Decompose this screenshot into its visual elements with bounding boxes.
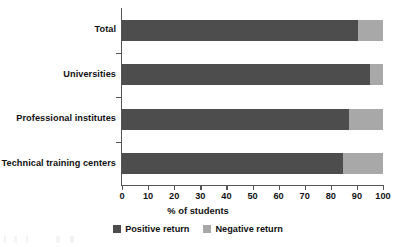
- scan-artifact: [4, 236, 154, 243]
- chart-legend: Positive returnNegative return: [0, 224, 396, 234]
- bar-row: [122, 20, 383, 41]
- bar-segment-negative: [358, 20, 383, 41]
- bar-segment-negative: [349, 109, 383, 130]
- x-axis-tick: [253, 185, 254, 190]
- bar-track: [122, 153, 383, 174]
- bar-row: [122, 109, 383, 130]
- bar-segment-positive: [122, 20, 358, 41]
- bar-segment-negative: [343, 153, 383, 174]
- bar-track: [122, 109, 383, 130]
- category-label: Total: [0, 24, 116, 34]
- bar-track: [122, 20, 383, 41]
- x-axis-tick: [279, 185, 280, 190]
- bar-segment-negative: [370, 64, 383, 85]
- category-label: Universities: [0, 69, 116, 79]
- x-axis-tick: [148, 185, 149, 190]
- y-axis-tick: [116, 53, 121, 54]
- bar-row: [122, 64, 383, 85]
- bar-segment-positive: [122, 64, 370, 85]
- bar-segment-positive: [122, 153, 343, 174]
- legend-item: Positive return: [113, 224, 189, 234]
- x-axis-tick: [200, 185, 201, 190]
- x-axis-tick: [122, 185, 123, 190]
- legend-item: Negative return: [203, 224, 282, 234]
- legend-label: Negative return: [215, 224, 282, 234]
- legend-swatch-icon: [113, 225, 121, 233]
- legend-label: Positive return: [125, 224, 189, 234]
- x-axis-tick: [383, 185, 384, 190]
- y-axis-tick: [116, 97, 121, 98]
- x-axis-tick-label: 100: [363, 191, 396, 201]
- bar-row: [122, 153, 383, 174]
- x-axis-tick: [226, 185, 227, 190]
- stacked-bar-chart: TotalUniversitiesProfessional institutes…: [0, 0, 396, 247]
- x-axis-tick: [305, 185, 306, 190]
- plot-area: [122, 8, 383, 186]
- x-axis-tick: [331, 185, 332, 190]
- category-label: Professional institutes: [0, 113, 116, 123]
- legend-swatch-icon: [203, 225, 211, 233]
- x-axis-title: % of students: [0, 205, 396, 216]
- bar-track: [122, 64, 383, 85]
- x-axis-tick: [357, 185, 358, 190]
- y-axis-tick: [116, 142, 121, 143]
- category-label: Technical training centers: [0, 158, 116, 168]
- bar-segment-positive: [122, 109, 349, 130]
- x-axis-tick: [174, 185, 175, 190]
